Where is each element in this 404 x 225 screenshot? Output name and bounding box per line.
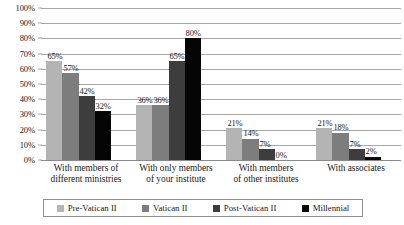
legend-item[interactable]: Post-Vatican II xyxy=(213,204,277,213)
bar[interactable] xyxy=(242,139,258,160)
bar[interactable] xyxy=(365,157,381,160)
x-axis-categories: With members ofdifferent ministriesWith … xyxy=(41,163,401,185)
y-axis-tick-label: 70% xyxy=(20,49,35,58)
y-axis-tick-label: 0% xyxy=(24,156,35,165)
x-axis-category-label: With only membersof your institute xyxy=(131,163,221,185)
y-axis-tick-label: 90% xyxy=(20,19,35,28)
category-label-line: With members of xyxy=(41,163,131,174)
bar-slot: 65% xyxy=(169,8,185,160)
bar-value-label: 65% xyxy=(47,52,62,61)
bar-slot: 18% xyxy=(332,8,348,160)
legend-label: Pre-Vatican II xyxy=(68,204,117,213)
bar[interactable] xyxy=(62,73,78,160)
bar-slot: 7% xyxy=(259,8,275,160)
legend-swatch-icon xyxy=(57,205,64,212)
legend-swatch-icon xyxy=(142,205,149,212)
y-axis-tick-label: 60% xyxy=(20,65,35,74)
bar-slot: 32% xyxy=(95,8,111,160)
x-axis-category-label: With members ofdifferent ministries xyxy=(41,163,131,185)
y-axis-tick-label: 80% xyxy=(20,34,35,43)
bar-value-label: 14% xyxy=(243,129,258,138)
bar[interactable] xyxy=(169,61,185,160)
bar[interactable] xyxy=(259,149,275,160)
bar-value-label: 0% xyxy=(276,151,287,160)
bar[interactable] xyxy=(152,105,168,160)
bar-slot: 21% xyxy=(316,8,332,160)
bar[interactable] xyxy=(349,149,365,160)
bar[interactable] xyxy=(46,61,62,160)
bar-groups: 65%57%42%32%36%36%65%80%21%14%7%0%21%18%… xyxy=(41,8,401,160)
bar-slot: 36% xyxy=(152,8,168,160)
legend-item[interactable]: Pre-Vatican II xyxy=(57,204,117,213)
bar[interactable] xyxy=(136,105,152,160)
bar-value-label: 7% xyxy=(260,140,271,149)
bar[interactable] xyxy=(95,111,111,160)
bar-slot: 36% xyxy=(136,8,152,160)
bar-slot: 21% xyxy=(226,8,242,160)
bar-value-label: 80% xyxy=(186,29,201,38)
bar-value-label: 36% xyxy=(153,96,168,105)
bar-slot: 65% xyxy=(46,8,62,160)
bar-value-label: 42% xyxy=(80,87,95,96)
bar-slot: 14% xyxy=(242,8,258,160)
legend-label: Post-Vatican II xyxy=(224,204,277,213)
y-axis-tick-label: 10% xyxy=(20,141,35,150)
legend: Pre-Vatican IIVatican IIPost-Vatican IIM… xyxy=(43,199,363,217)
bar-slot: 57% xyxy=(62,8,78,160)
bar-group: 36%36%65%80% xyxy=(131,8,221,160)
bar-value-label: 21% xyxy=(227,119,242,128)
bar-value-label: 57% xyxy=(63,64,78,73)
legend-swatch-icon xyxy=(213,205,220,212)
bar-value-label: 36% xyxy=(137,96,152,105)
bar[interactable] xyxy=(316,128,332,160)
bar-group: 21%14%7%0% xyxy=(221,8,311,160)
category-label-line: different ministries xyxy=(41,174,131,185)
y-axis-tick-label: 40% xyxy=(20,95,35,104)
legend-swatch-icon xyxy=(302,205,309,212)
y-axis-tick-label: 30% xyxy=(20,110,35,119)
legend-item[interactable]: Millennial xyxy=(302,204,350,213)
bar[interactable] xyxy=(226,128,242,160)
legend-label: Vatican II xyxy=(153,204,187,213)
bar-value-label: 7% xyxy=(350,140,361,149)
bar-slot: 42% xyxy=(79,8,95,160)
bar-value-label: 21% xyxy=(317,119,332,128)
bar-value-label: 32% xyxy=(96,102,111,111)
bar-slot: 0% xyxy=(275,8,291,160)
bar-group: 21%18%7%2% xyxy=(311,8,401,160)
bar-slot: 2% xyxy=(365,8,381,160)
bar[interactable] xyxy=(79,96,95,160)
y-axis-tick-label: 100% xyxy=(16,4,35,13)
legend-label: Millennial xyxy=(313,204,350,213)
gridline xyxy=(41,160,401,161)
category-label-line: With members xyxy=(221,163,311,174)
category-label-line: of other institutes xyxy=(221,174,311,185)
bar[interactable] xyxy=(332,133,348,160)
plot-area: 65%57%42%32%36%36%65%80%21%14%7%0%21%18%… xyxy=(41,8,401,160)
x-axis-category-label: With associates xyxy=(311,163,401,185)
bar-value-label: 2% xyxy=(366,147,377,156)
bar-value-label: 65% xyxy=(170,52,185,61)
y-axis: 100%90%80%70%60%50%40%30%20%10%0% xyxy=(0,8,38,160)
bar-slot: 80% xyxy=(185,8,201,160)
category-label-line: With associates xyxy=(311,163,401,174)
bar-value-label: 18% xyxy=(333,123,348,132)
legend-item[interactable]: Vatican II xyxy=(142,204,187,213)
bar-group: 65%57%42%32% xyxy=(41,8,131,160)
category-label-line: of your institute xyxy=(131,174,221,185)
x-axis-category-label: With membersof other institutes xyxy=(221,163,311,185)
y-axis-tick-label: 50% xyxy=(20,80,35,89)
bar[interactable] xyxy=(185,38,201,160)
bar-slot: 7% xyxy=(349,8,365,160)
bar-chart: 100%90%80%70%60%50%40%30%20%10%0% 65%57%… xyxy=(0,0,404,225)
y-axis-tick-label: 20% xyxy=(20,125,35,134)
category-label-line: With only members xyxy=(131,163,221,174)
